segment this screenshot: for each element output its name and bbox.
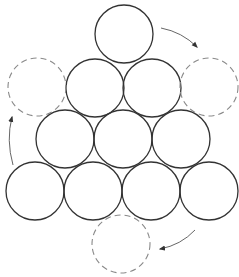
coin-r3c2 (94, 110, 152, 168)
coin-r4c1 (6, 162, 64, 220)
coin-r1c1 (95, 5, 153, 63)
coin-r4c3 (122, 162, 180, 220)
arrow-bottom-left-to-left-icon (9, 117, 13, 165)
move-arrows (9, 28, 197, 249)
arrow-bottom-right-to-bottom-icon (160, 230, 195, 249)
target-right-dashed-circle (180, 58, 238, 116)
coin-r3c1 (36, 110, 94, 168)
coin-r2c2 (123, 59, 181, 117)
target-bottom-dashed-circle (92, 215, 150, 273)
coin-r2c1 (66, 59, 124, 117)
coin-triangle-diagram (0, 0, 239, 277)
solid-coins (6, 5, 238, 220)
target-left-dashed-circle (8, 58, 66, 116)
coin-r4c4 (180, 162, 238, 220)
coin-r3c3 (152, 110, 210, 168)
coin-r4c2 (64, 162, 122, 220)
arrow-top-to-right-icon (161, 28, 197, 47)
